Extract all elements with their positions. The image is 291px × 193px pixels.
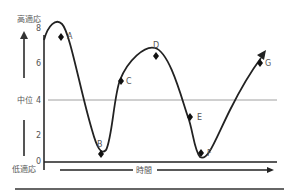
label-mid: 中位 — [17, 95, 33, 105]
svg-text:E: E — [197, 113, 202, 122]
svg-text:G: G — [265, 59, 271, 68]
point-a: A — [58, 32, 73, 41]
tick-6: 6 — [36, 59, 41, 68]
svg-text:C: C — [126, 77, 132, 86]
label-low: 低適応 — [12, 164, 36, 174]
tick-4: 4 — [36, 96, 41, 105]
point-c: C — [118, 77, 132, 86]
time-arrow-icon — [60, 167, 274, 173]
label-time: 時間 — [136, 166, 152, 175]
adaptation-diagram: 高適応 中位 低適応 時間 8 6 4 2 0 A B C D E F G — [0, 0, 291, 193]
svg-text:F: F — [207, 149, 212, 158]
svg-text:D: D — [153, 41, 159, 50]
point-b: B — [97, 140, 104, 158]
tick-2: 2 — [36, 131, 41, 140]
svg-text:B: B — [97, 140, 103, 149]
up-arrow-icon — [20, 31, 28, 78]
point-g: G — [257, 59, 271, 68]
svg-text:A: A — [67, 32, 73, 41]
tick-8: 8 — [36, 24, 41, 33]
tick-0: 0 — [36, 157, 41, 166]
label-high: 高適応 — [17, 14, 41, 24]
